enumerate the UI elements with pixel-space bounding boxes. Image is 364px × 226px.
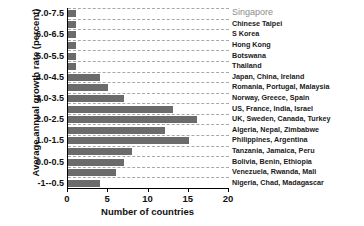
country-annotation: S Korea — [232, 30, 364, 37]
bar — [68, 21, 76, 28]
gridline — [68, 19, 229, 20]
y-axis-tick-label: 3.0-3.5 — [12, 94, 64, 103]
gridline — [68, 135, 229, 136]
country-annotation: UK, Sweden, Canada, Turkey — [232, 115, 364, 122]
y-axis-tick-label: 4.0-4.5 — [12, 73, 64, 82]
x-axis-title: Number of countries — [67, 206, 228, 217]
bar — [68, 116, 197, 123]
y-axis-tick-label: 5.0-5.5 — [12, 52, 64, 61]
country-annotation: Nigeria, Chad, Madagascar — [232, 179, 364, 186]
gridline — [68, 61, 229, 62]
y-axis-tick-label: 6.0-6.5 — [12, 30, 64, 39]
bar — [68, 127, 165, 134]
y-axis-tick-label: 0.0-0.5 — [12, 158, 64, 167]
country-annotation: Bolivia, Benin, Ethiopia — [232, 158, 364, 165]
gridline — [68, 146, 229, 147]
x-axis-tick-label: 5 — [92, 193, 122, 204]
bar — [68, 74, 100, 81]
country-annotation: Philippines, Argentina — [232, 136, 364, 143]
y-axis-tick-label: 2.0-2.5 — [12, 115, 64, 124]
bar — [68, 95, 124, 102]
country-annotation: Norway, Greece, Spain — [232, 94, 364, 101]
gridline — [68, 167, 229, 168]
y-axis-tick-label: 1.0-1.5 — [12, 136, 64, 145]
chart-figure: Average annual growth rate (percent) 7.0… — [0, 0, 364, 226]
x-axis-tick-label: 20 — [213, 193, 243, 204]
country-annotation: Singapore — [232, 8, 364, 17]
gridline — [68, 29, 229, 30]
country-annotation: Botswana — [232, 52, 364, 59]
gridline — [68, 93, 229, 94]
x-axis-tick — [228, 188, 229, 192]
bar — [68, 180, 100, 187]
y-axis-tick-labels: 7.0-7.56.0-6.55.0-5.54.0-4.53.0-3.52.0-2… — [12, 8, 64, 188]
country-annotation: Chinese Taipei — [232, 20, 364, 27]
bar — [68, 106, 173, 113]
x-axis-tick — [67, 188, 68, 192]
gridline — [68, 82, 229, 83]
y-axis-tick-label: 7.0-7.5 — [12, 9, 64, 18]
bar — [68, 63, 76, 70]
gridline — [68, 124, 229, 125]
y-axis-tick-label: -1--0.5 — [12, 179, 64, 188]
country-annotation: Hong Kong — [232, 41, 364, 48]
country-annotation: US, France, India, Israel — [232, 105, 364, 112]
country-annotation: Thailand — [232, 62, 364, 69]
country-annotation: Japan, China, Ireland — [232, 73, 364, 80]
gridline — [68, 50, 229, 51]
country-annotation: Romania, Portugal, Malaysia — [232, 83, 364, 90]
gridline — [68, 114, 229, 115]
bar — [68, 159, 124, 166]
plot-area — [67, 8, 228, 188]
bar — [68, 137, 189, 144]
gridline — [68, 103, 229, 104]
x-axis-tick-label: 10 — [133, 193, 163, 204]
x-axis-tick — [107, 188, 108, 192]
gridline — [68, 177, 229, 178]
x-axis-tick-label: 15 — [173, 193, 203, 204]
bar — [68, 148, 132, 155]
bar — [68, 53, 76, 60]
x-axis-tick — [148, 188, 149, 192]
bar — [68, 169, 116, 176]
gridline — [68, 72, 229, 73]
bar — [68, 84, 108, 91]
bar — [68, 10, 76, 17]
country-annotation: Venezuela, Rwanda, Mali — [232, 168, 364, 175]
gridline — [68, 40, 229, 41]
gridline — [68, 156, 229, 157]
x-axis-tick-label: 0 — [52, 193, 82, 204]
country-annotation: Tanzania, Jamaica, Peru — [232, 147, 364, 154]
country-annotation-list: SingaporeChinese TaipeiS KoreaHong KongB… — [232, 8, 364, 188]
gridline — [68, 8, 229, 9]
bar — [68, 42, 76, 49]
country-annotation: Algeria, Nepal, Zimbabwe — [232, 126, 364, 133]
bar — [68, 31, 76, 38]
x-axis-tick — [188, 188, 189, 192]
